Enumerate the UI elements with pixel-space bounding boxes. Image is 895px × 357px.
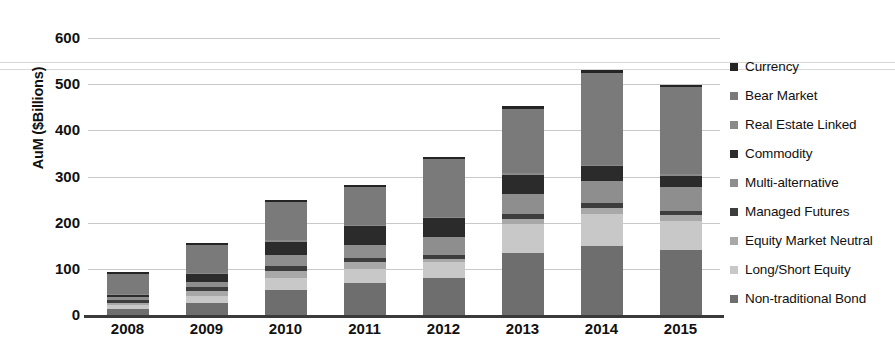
bar-segment: [660, 87, 702, 174]
bar-segment: [344, 226, 386, 244]
x-tick-label: 2014: [567, 320, 637, 337]
legend-label: Currency: [745, 59, 799, 74]
bar-segment: [502, 253, 544, 315]
bar-segment: [186, 245, 228, 273]
legend-label: Bear Market: [745, 88, 817, 103]
bar-segment: [265, 290, 307, 315]
bar-segment: [265, 255, 307, 265]
legend-swatch-icon: [730, 63, 738, 71]
gridline: [88, 84, 720, 85]
y-tick-label: 400: [36, 121, 80, 138]
legend-item[interactable]: Managed Futures: [730, 197, 895, 226]
bar-2012: [423, 157, 465, 315]
legend-label: Multi-alternative: [745, 175, 839, 190]
x-axis-ticks: 20082009201020112012201320142015: [88, 320, 720, 344]
gridline: [88, 130, 720, 131]
legend-item[interactable]: Bear Market: [730, 81, 895, 110]
legend-item[interactable]: Non-traditional Bond: [730, 284, 895, 313]
gridline: [88, 269, 720, 270]
legend-swatch-icon: [730, 266, 738, 274]
y-tick-label: 0: [36, 306, 80, 323]
y-axis-ticks: 0100200300400500600: [36, 38, 80, 315]
bar-segment: [344, 269, 386, 283]
bar-segment: [186, 274, 228, 282]
bar-2008: [107, 272, 149, 315]
bar-segment: [502, 175, 544, 193]
legend-label: Equity Market Neutral: [745, 233, 873, 248]
x-tick-label: 2010: [251, 320, 321, 337]
bar-segment: [344, 283, 386, 315]
gridline: [88, 177, 720, 178]
bar-segment: [186, 303, 228, 315]
x-tick-label: 2012: [409, 320, 479, 337]
legend-label: Managed Futures: [745, 204, 849, 219]
legend-swatch-icon: [730, 121, 738, 129]
legend-label: Real Estate Linked: [745, 117, 857, 132]
bar-2015: [660, 85, 702, 315]
bar-segment: [423, 159, 465, 217]
bar-segment: [502, 109, 544, 174]
legend-item[interactable]: Commodity: [730, 139, 895, 168]
x-tick-label: 2011: [330, 320, 400, 337]
legend-swatch-icon: [730, 92, 738, 100]
bar-segment: [344, 245, 386, 258]
bar-segment: [660, 187, 702, 211]
x-axis-line: [84, 315, 724, 318]
bar-segment: [344, 187, 386, 225]
bar-2010: [265, 200, 307, 315]
bar-segment: [581, 181, 623, 203]
bar-segment: [502, 224, 544, 253]
y-tick-label: 200: [36, 214, 80, 231]
bar-segment: [107, 274, 149, 294]
bar-segment: [660, 221, 702, 251]
bar-segment: [423, 237, 465, 255]
bar-2009: [186, 243, 228, 315]
bar-segment: [581, 246, 623, 315]
bar-segment: [265, 278, 307, 290]
x-tick-label: 2015: [646, 320, 716, 337]
bar-segment: [581, 73, 623, 164]
legend-swatch-icon: [730, 295, 738, 303]
legend-label: Non-traditional Bond: [745, 291, 866, 306]
legend-swatch-icon: [730, 179, 738, 187]
bar-segment: [423, 278, 465, 315]
stacked-bar-chart: AuM ($Billions) 0100200300400500600 2008…: [0, 0, 895, 357]
bar-segment: [581, 214, 623, 245]
legend-item[interactable]: Multi-alternative: [730, 168, 895, 197]
legend: CurrencyBear MarketReal Estate LinkedCom…: [730, 52, 895, 313]
bar-segment: [423, 262, 465, 278]
legend-item[interactable]: Currency: [730, 52, 895, 81]
legend-item[interactable]: Equity Market Neutral: [730, 226, 895, 255]
legend-item[interactable]: Long/Short Equity: [730, 255, 895, 284]
legend-item[interactable]: Real Estate Linked: [730, 110, 895, 139]
bar-segment: [581, 166, 623, 181]
bar-segment: [265, 242, 307, 256]
y-tick-label: 100: [36, 260, 80, 277]
x-tick-label: 2013: [488, 320, 558, 337]
bar-segment: [423, 218, 465, 237]
legend-label: Long/Short Equity: [745, 262, 851, 277]
bar-segment: [660, 176, 702, 187]
legend-swatch-icon: [730, 237, 738, 245]
legend-swatch-icon: [730, 208, 738, 216]
bar-segment: [502, 194, 544, 214]
bar-2014: [581, 70, 623, 315]
legend-label: Commodity: [745, 146, 812, 161]
x-tick-label: 2009: [172, 320, 242, 337]
legend-swatch-icon: [730, 150, 738, 158]
y-tick-label: 600: [36, 29, 80, 46]
y-tick-label: 300: [36, 168, 80, 185]
x-tick-label: 2008: [93, 320, 163, 337]
bar-segment: [186, 296, 228, 303]
bar-segment: [265, 202, 307, 240]
bar-segment: [660, 250, 702, 315]
bar-2013: [502, 106, 544, 315]
gridline: [88, 223, 720, 224]
plot-area: [88, 38, 720, 315]
y-tick-label: 500: [36, 75, 80, 92]
bar-2011: [344, 185, 386, 315]
gridline: [88, 38, 720, 39]
